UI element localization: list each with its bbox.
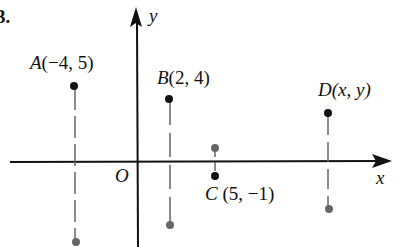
y-axis-label: y xyxy=(149,6,157,25)
point-d-coords: (x, y) xyxy=(332,79,371,100)
point-b-dot xyxy=(165,95,173,103)
point-c-reflection-dot xyxy=(211,144,219,152)
point-b-coords: (2, 4) xyxy=(169,67,210,88)
point-b-name: B xyxy=(157,67,169,88)
origin-label: O xyxy=(115,166,129,185)
point-b-reflection-dot xyxy=(166,221,174,229)
point-a-name: A xyxy=(30,52,42,73)
point-a-reflection-dot xyxy=(72,238,80,246)
point-a-coords: (−4, 5) xyxy=(42,52,94,73)
problem-number: 3. xyxy=(0,7,10,26)
coordinate-diagram: 3. y x O A(−4, 5) B(2, 4) C (5, −1) D(x,… xyxy=(0,0,398,247)
point-c-name: C xyxy=(205,183,218,204)
point-d-reflection-dot xyxy=(325,205,333,213)
point-c-coords: (5, −1) xyxy=(222,183,274,204)
point-a-label: A(−4, 5) xyxy=(30,53,93,72)
point-d-name: D xyxy=(318,79,332,100)
point-b-label: B(2, 4) xyxy=(157,68,210,87)
point-d-dot xyxy=(324,109,332,117)
point-c-dot xyxy=(211,172,219,180)
y-axis xyxy=(137,22,138,247)
x-axis-label: x xyxy=(376,168,384,187)
point-a-dot xyxy=(70,82,78,90)
point-c-label: C (5, −1) xyxy=(205,184,274,203)
x-axis xyxy=(10,161,380,162)
point-d-label: D(x, y) xyxy=(318,80,371,99)
y-axis-arrow-icon xyxy=(130,7,142,27)
diagram-graphics xyxy=(0,0,398,247)
